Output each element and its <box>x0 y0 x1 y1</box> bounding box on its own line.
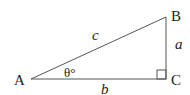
vertex-label-b: B <box>171 9 181 24</box>
triangle-diagram: A B C c a b θ° <box>0 0 190 95</box>
side-label-c: c <box>92 28 99 43</box>
triangle-shape <box>0 0 190 95</box>
vertex-label-c: C <box>171 73 181 88</box>
side-label-b: b <box>101 82 109 95</box>
angle-label-theta: θ° <box>64 66 75 79</box>
vertex-label-a: A <box>14 73 25 88</box>
side-label-a: a <box>175 37 183 52</box>
right-angle-marker <box>157 70 166 79</box>
